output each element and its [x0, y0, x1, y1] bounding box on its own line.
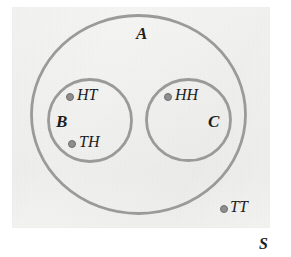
set-label-B: B	[56, 113, 67, 130]
set-label-C: C	[208, 113, 219, 130]
sample-point-label-th: TH	[79, 134, 99, 150]
venn-diagram-figure: A B C S HT TH HH TT	[0, 0, 291, 257]
set-label-A: A	[136, 25, 147, 42]
sample-point-dot-ht	[66, 93, 74, 101]
sample-point-dot-th	[68, 140, 76, 148]
sample-point-label-ht: HT	[77, 87, 97, 103]
set-label-S: S	[259, 236, 268, 252]
sample-point-dot-hh	[164, 93, 172, 101]
sample-point-label-tt: TT	[230, 199, 248, 215]
sample-point-label-hh: HH	[175, 87, 198, 103]
sample-point-dot-tt	[220, 205, 228, 213]
